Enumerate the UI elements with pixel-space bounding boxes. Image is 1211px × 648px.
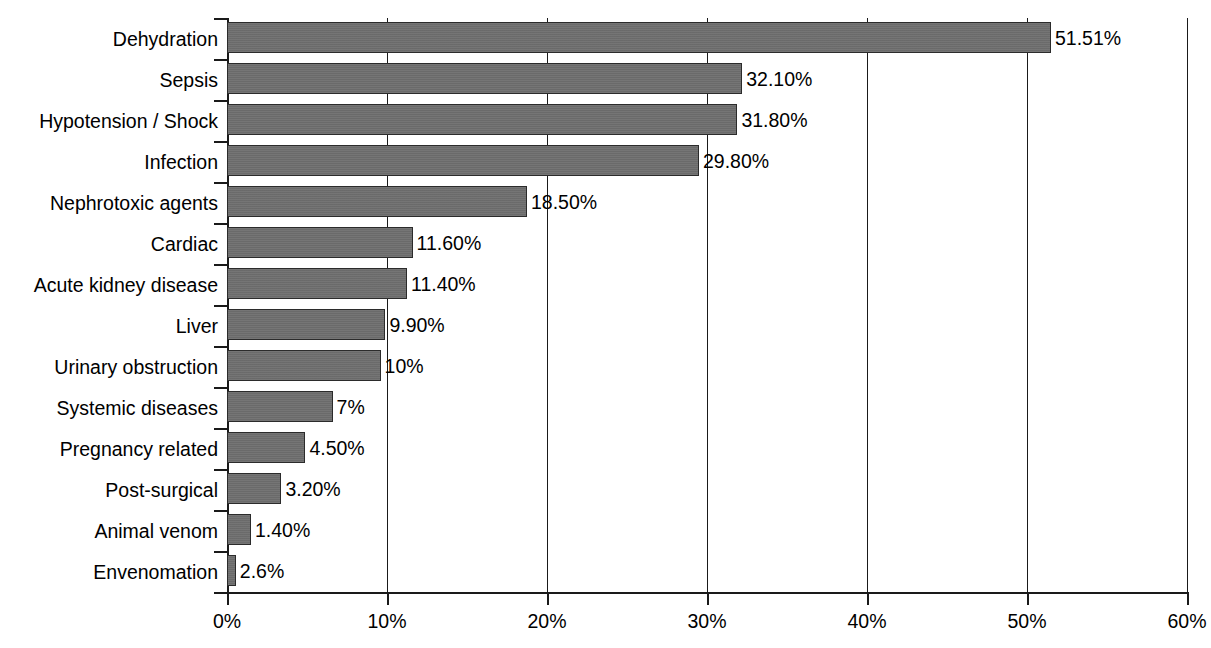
x-axis-tick [387, 592, 389, 605]
x-axis-tick [867, 592, 869, 605]
x-axis-tick-label: 0% [192, 612, 262, 632]
category-label: Pregnancy related [0, 440, 218, 460]
bar [227, 514, 251, 545]
bar [227, 63, 742, 94]
y-axis-tick [214, 592, 227, 594]
bar [227, 432, 305, 463]
bar-value-label: 9.90% [389, 316, 444, 336]
category-label: Dehydration [0, 30, 218, 50]
bar [227, 104, 737, 135]
bar [227, 391, 333, 422]
bar-value-label: 11.40% [411, 275, 476, 295]
bar-value-label: 11.60% [417, 234, 482, 254]
category-label: Acute kidney disease [0, 276, 218, 296]
bar-value-label: 31.80% [741, 111, 807, 131]
category-label: Liver [0, 317, 218, 337]
bar-value-label: 7% [337, 398, 365, 418]
bar-value-label: 1.40% [255, 521, 310, 541]
bar-value-label: 18.50% [531, 193, 597, 213]
bar [227, 473, 281, 504]
category-label: Cardiac [0, 235, 218, 255]
bar-value-label: 10% [385, 357, 424, 377]
x-axis-tick [227, 592, 229, 605]
bar-value-label: 2.6% [240, 562, 284, 582]
bar [227, 555, 236, 586]
category-label: Post-surgical [0, 481, 218, 501]
category-label: Envenomation [0, 563, 218, 583]
category-label: Urinary obstruction [0, 358, 218, 378]
gridline [1187, 18, 1188, 592]
category-label: Infection [0, 153, 218, 173]
x-axis-tick-label: 30% [672, 612, 742, 632]
plot-area: 51.51%32.10%31.80%29.80%18.50%11.60%11.4… [227, 18, 1187, 592]
category-label: Sepsis [0, 71, 218, 91]
x-axis-tick [547, 592, 549, 605]
bar-value-label: 32.10% [746, 70, 812, 90]
bar [227, 145, 699, 176]
x-axis-tick [1027, 592, 1029, 605]
x-axis-tick-label: 10% [352, 612, 422, 632]
bar [227, 186, 527, 217]
bar-value-label: 51.51% [1055, 29, 1121, 49]
x-axis-tick [707, 592, 709, 605]
bar [227, 268, 407, 299]
category-label: Hypotension / Shock [0, 112, 218, 132]
bar-value-label: 4.50% [309, 439, 364, 459]
x-axis-tick-label: 50% [992, 612, 1062, 632]
category-label: Nephrotoxic agents [0, 194, 218, 214]
bar [227, 309, 385, 340]
x-axis-tick [1187, 592, 1189, 605]
category-label: Systemic diseases [0, 399, 218, 419]
bar-value-label: 29.80% [703, 152, 769, 172]
category-label: Animal venom [0, 522, 218, 542]
bar-value-label: 3.20% [285, 480, 340, 500]
x-axis-tick-label: 40% [832, 612, 902, 632]
y-axis-category-labels: DehydrationSepsisHypotension / ShockInfe… [0, 18, 218, 592]
bar [227, 350, 381, 381]
x-axis-tick-label: 20% [512, 612, 582, 632]
x-axis-tick-label: 60% [1152, 612, 1211, 632]
bar [227, 22, 1051, 53]
bar [227, 227, 413, 258]
